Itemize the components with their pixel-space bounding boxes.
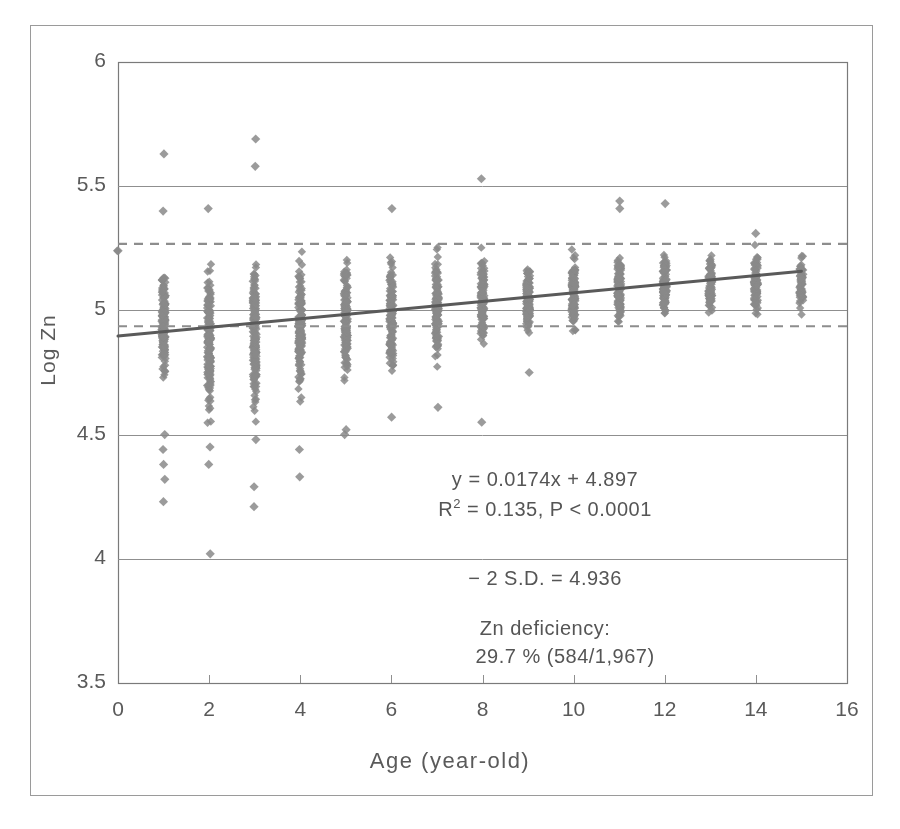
x-axis-label: Age (year-old) — [0, 748, 900, 774]
x-tick-label: 4 — [280, 697, 320, 721]
r-squared-text: R2 = 0.135, P < 0.0001 — [438, 496, 652, 521]
r-squared-prefix: R — [438, 498, 453, 520]
y-tick-label: 3.5 — [40, 669, 106, 693]
x-tick-label: 0 — [98, 697, 138, 721]
y-tick-label: 5.5 — [40, 172, 106, 196]
r-squared-rest: = 0.135, P < 0.0001 — [461, 498, 652, 520]
zn-deficiency-value: 29.7 % (584/1,967) — [475, 645, 654, 668]
y-tick-label: 5 — [40, 296, 106, 320]
x-tick-label: 12 — [645, 697, 685, 721]
y-tick-label: 6 — [40, 48, 106, 72]
x-tick-label: 8 — [463, 697, 503, 721]
regression-equation-text: y = 0.0174x + 4.897 — [452, 468, 638, 491]
x-tick-label: 6 — [371, 697, 411, 721]
x-tick-label: 16 — [827, 697, 867, 721]
zn-deficiency-label: Zn deficiency: — [480, 617, 610, 640]
y-tick-label: 4 — [40, 545, 106, 569]
x-tick-label: 14 — [736, 697, 776, 721]
minus-two-sd-text: − 2 S.D. = 4.936 — [468, 567, 622, 590]
r-squared-exponent: 2 — [453, 496, 461, 511]
x-tick-label: 10 — [554, 697, 594, 721]
x-tick-label: 2 — [189, 697, 229, 721]
y-tick-label: 4.5 — [40, 421, 106, 445]
